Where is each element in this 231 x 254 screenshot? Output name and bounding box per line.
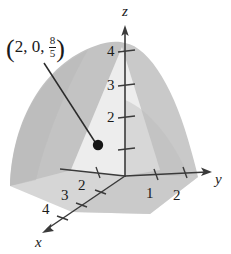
figure-3d-solid: (2, 0, 8 5 ) z y x 4 3 2 1 2 2 3 4 <box>0 0 231 254</box>
z-tick-label-2: 2 <box>107 110 115 125</box>
z-axis-label: z <box>122 4 128 19</box>
annotation-open-paren: ( <box>6 34 15 63</box>
z-tick-label-4: 4 <box>107 44 115 59</box>
y-tick-label-2: 2 <box>173 188 181 203</box>
x-tick-label-3: 3 <box>61 188 69 203</box>
annotation-x-value: 2, <box>15 37 28 56</box>
annotation-close-paren: ) <box>56 34 65 63</box>
annotation-z-fraction: 8 5 <box>49 35 57 59</box>
x-tick-label-2: 2 <box>78 178 86 193</box>
y-axis-label: y <box>215 172 222 187</box>
point-annotation-label: (2, 0, 8 5 ) <box>6 36 65 62</box>
x-axis-label: x <box>35 235 42 250</box>
x-tick-label-4: 4 <box>42 202 50 217</box>
annotation-y-value: 0, <box>32 37 45 56</box>
annotation-z-denominator: 5 <box>49 47 57 60</box>
marked-point <box>93 140 103 150</box>
y-tick-label-1: 1 <box>146 186 154 201</box>
z-tick-label-3: 3 <box>107 78 115 93</box>
annotation-z-numerator: 8 <box>49 35 57 47</box>
